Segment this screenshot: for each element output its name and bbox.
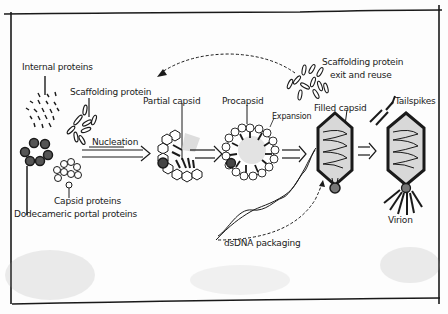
- nucleation-arrow: [82, 146, 150, 161]
- internal-proteins-icon: [26, 76, 59, 128]
- label-dsdna-packaging: dsDNA packaging: [224, 238, 300, 248]
- label-expansion: Expansion: [272, 112, 311, 121]
- diagram-svg: [0, 0, 448, 314]
- label-scaffolding-protein: Scaffolding protein: [70, 87, 151, 97]
- label-internal-proteins: Internal proteins: [22, 62, 93, 72]
- procapsid-icon: [222, 105, 279, 180]
- portal-proteins-icon: [21, 139, 53, 216]
- label-filled-capsid: Filled capsid: [314, 103, 367, 113]
- label-procapsid: Procapsid: [222, 96, 264, 106]
- diagram-canvas: Internal proteins Scaffolding protein Nu…: [0, 0, 448, 314]
- tailspikes-icon: [370, 96, 395, 125]
- label-partial-capsid: Partial capsid: [143, 96, 200, 106]
- scaffolding-reuse-arrow: [162, 54, 295, 73]
- dsdna-packaging-arrow: [218, 183, 322, 240]
- paper-smudges: [5, 247, 440, 300]
- scaffolding-exit-icon: [286, 64, 329, 100]
- expansion-arrow: [282, 146, 306, 162]
- partial-capsid-icon: [158, 103, 202, 182]
- label-capsid-proteins: Capsid proteins: [54, 196, 121, 206]
- label-scaffolding-exit-1: Scaffolding protein: [322, 57, 403, 67]
- dsdna-arrowhead: [319, 180, 325, 187]
- label-portal-proteins: Dodecameric portal proteins: [14, 209, 137, 219]
- label-nucleation: Nucleation: [92, 137, 138, 147]
- arrow-to-virion: [358, 143, 376, 159]
- label-virion: Virion: [388, 215, 413, 225]
- virion-icon: [384, 113, 424, 215]
- label-scaffolding-exit-2: exit and reuse: [330, 70, 392, 80]
- label-tailspikes: Tailspikes: [395, 96, 436, 106]
- capsid-proteins-icon: [54, 159, 82, 199]
